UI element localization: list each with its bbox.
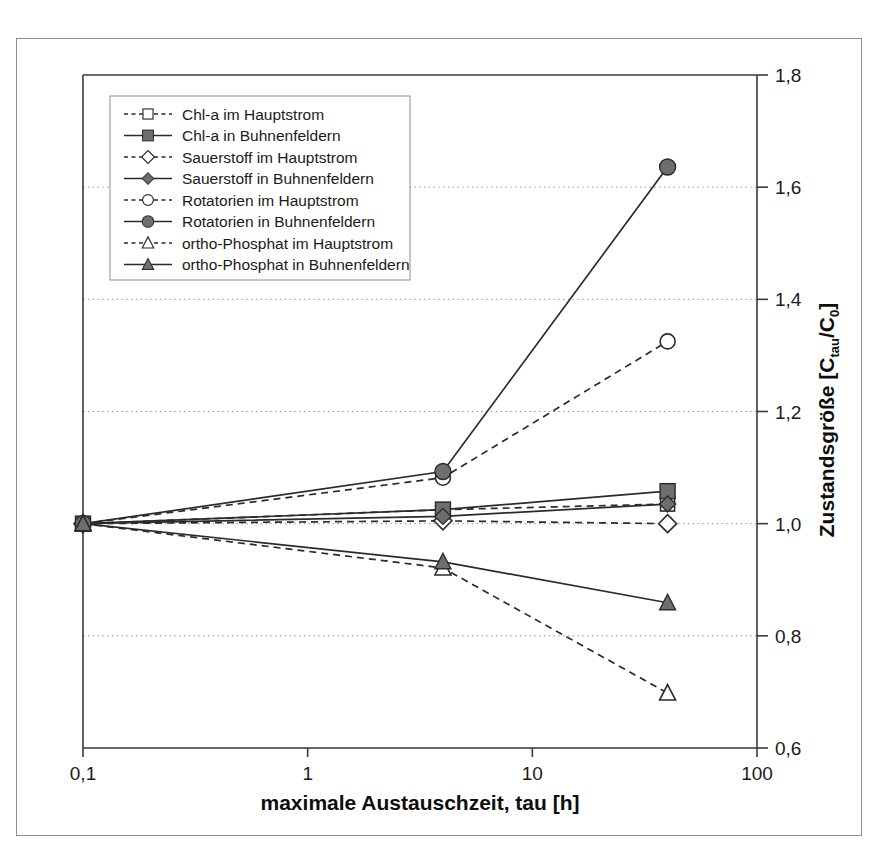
series-line — [83, 341, 668, 523]
y-tick-label: 0,8 — [775, 626, 801, 647]
legend-marker-sample — [143, 109, 153, 119]
y-axis-title: Zustandsgröße [Ctau/C0] — [815, 303, 842, 537]
legend-box — [110, 96, 410, 280]
x-tick-label: 1 — [302, 763, 313, 784]
y-tick-label: 0,6 — [775, 738, 801, 759]
y-tick-label: 1,6 — [775, 177, 801, 198]
y-axis-tick-labels: 1,81,61,41,21,00,80,6 — [775, 65, 802, 759]
y-axis-ticks — [757, 75, 768, 748]
y-tick-label: 1,4 — [775, 289, 802, 310]
chart-legend: Chl-a im HauptstromChl-a in Buhnenfelder… — [110, 96, 410, 280]
legend-label: Chl-a in Buhnenfeldern — [182, 127, 341, 144]
legend-label: Chl-a im Hauptstrom — [182, 106, 324, 123]
legend-label: Sauerstoff in Buhnenfeldern — [182, 170, 374, 187]
x-axis-title: maximale Austauschzeit, tau [h] — [261, 791, 580, 814]
legend-label: ortho-Phosphat im Hauptstrom — [182, 235, 393, 252]
x-axis-tick-labels: 0,1110100 — [70, 763, 773, 784]
figure-root: 1,81,61,41,21,00,80,6 0,1110100 maximale… — [0, 0, 896, 862]
data-point-marker — [660, 334, 675, 349]
data-point-marker — [659, 515, 677, 533]
data-point-marker — [660, 159, 676, 175]
data-point-marker — [435, 464, 451, 480]
legend-label: Sauerstoff im Hauptstrom — [182, 149, 357, 166]
legend-marker-sample — [142, 216, 154, 228]
y-tick-label: 1,2 — [775, 402, 801, 423]
legend-label: ortho-Phosphat in Buhnenfeldern — [182, 256, 410, 273]
series-line — [83, 491, 668, 524]
x-tick-label: 100 — [741, 763, 773, 784]
legend-label: Rotatorien in Buhnenfeldern — [182, 213, 375, 230]
series-line — [83, 524, 668, 693]
x-axis-ticks — [83, 748, 757, 757]
legend-marker-sample — [143, 130, 154, 141]
x-tick-label: 10 — [522, 763, 543, 784]
series-line — [83, 524, 668, 603]
data-point-marker — [660, 685, 676, 701]
y-tick-label: 1,8 — [775, 65, 801, 86]
chart-canvas: 1,81,61,41,21,00,80,6 0,1110100 maximale… — [0, 0, 896, 862]
x-tick-label: 0,1 — [70, 763, 96, 784]
y-tick-label: 1,0 — [775, 514, 801, 535]
legend-label: Rotatorien im Hauptstrom — [182, 192, 359, 209]
legend-marker-sample — [143, 195, 154, 206]
